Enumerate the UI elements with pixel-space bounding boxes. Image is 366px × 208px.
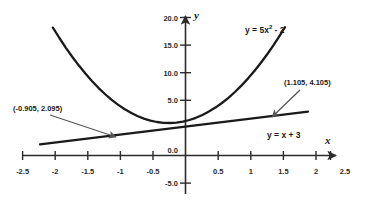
- line-label: y = x + 3: [267, 130, 301, 140]
- parabola-label-suffix: - 2: [272, 25, 284, 35]
- parabola-label-prefix: y = 5x: [245, 25, 269, 35]
- y-tick-label-10: 10.0: [156, 68, 178, 77]
- x-tick-label-0-5: 0.5: [213, 167, 223, 176]
- y-tick-label-minus5: -5.0: [154, 179, 178, 188]
- x-tick-label-1-5: 1.5: [278, 167, 288, 176]
- y-axis-label: y: [194, 9, 199, 21]
- y-tick-label-0: 0.0: [156, 146, 178, 155]
- x-tick-label-minus1-5: -1.5: [81, 167, 94, 176]
- left-annotation-arrow: [50, 115, 116, 137]
- x-tick-label-2: 2: [314, 167, 318, 176]
- x-axis-label: x: [325, 134, 331, 146]
- x-tick-label-minus0-5: -0.5: [147, 167, 160, 176]
- x-tick-label-minus2: -2: [52, 167, 59, 176]
- x-tick-label-2-5: 2.5: [340, 167, 350, 176]
- right-intersection-label: (1.105, 4.105): [284, 78, 331, 87]
- graph-figure: 20.0 15.0 10.0 5.0 0.0 -5.0 -2.5 -2 -1.5…: [0, 0, 366, 208]
- left-intersection-label: (-0.905, 2.095): [13, 104, 62, 113]
- y-tick-label-20: 20.0: [156, 13, 178, 22]
- x-tick-label-minus1: -1: [117, 167, 124, 176]
- y-tick-label-5: 5.0: [156, 96, 178, 105]
- parabola-label: y = 5x2 - 2: [245, 25, 285, 35]
- x-tick-label-1: 1: [249, 167, 253, 176]
- y-tick-label-15: 15.0: [156, 41, 178, 50]
- x-tick-label-minus2-5: -2.5: [16, 167, 29, 176]
